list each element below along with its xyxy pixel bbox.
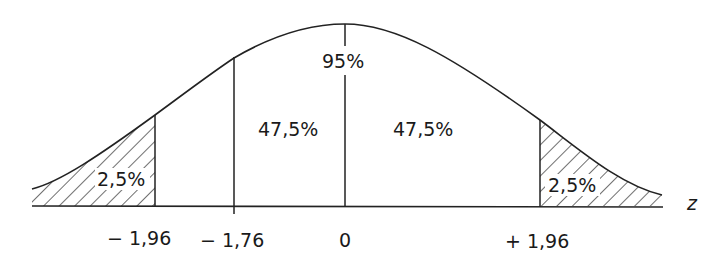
z-axis-label: z — [687, 194, 697, 213]
left-tail-percent-label: 2,5% — [97, 170, 145, 189]
right-tail-percent-label: 2,5% — [548, 176, 596, 195]
left-center-percent-label: 47,5% — [258, 120, 318, 139]
z-axis — [32, 206, 663, 207]
right-center-percent-label: 47,5% — [393, 120, 453, 139]
tick-label-neg196: − 1,96 — [107, 229, 171, 248]
tick-label-neg176: − 1,76 — [200, 231, 264, 250]
tick-label-pos196: + 1,96 — [505, 232, 569, 251]
center-percent-label: 95% — [322, 52, 364, 71]
tick-label-zero: 0 — [339, 231, 351, 250]
